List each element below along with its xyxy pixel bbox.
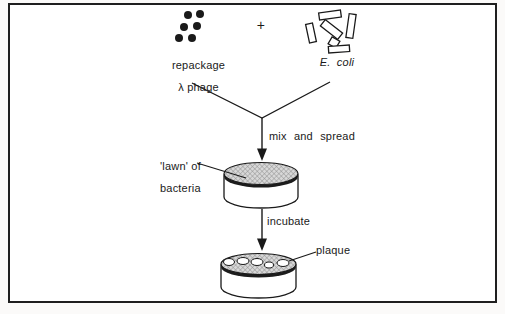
plaque-spot [277, 260, 289, 267]
lawn-label-line2: bacteria [160, 182, 201, 194]
plaque-dish [221, 254, 296, 299]
phage-particle-dot [196, 10, 204, 18]
plaque-spot [224, 259, 235, 266]
ecoli-cell-shape [320, 20, 342, 40]
ecoli-cells-group [306, 10, 357, 53]
phage-particle-dot [180, 23, 188, 31]
phage-dots-group [175, 10, 204, 42]
lawn-dish-surface [224, 163, 298, 185]
phage-particle-dot [175, 34, 183, 42]
plaque-spot [265, 262, 274, 268]
phage-particle-dot [188, 34, 196, 42]
phage-label-line2: λ phage [178, 81, 219, 93]
phage-particle-dot [184, 11, 192, 19]
ecoli-cell-shape [319, 10, 342, 20]
plaque-spot [251, 259, 263, 266]
lawn-dish [224, 163, 298, 209]
lawn-label-line1: 'lawn' of [160, 160, 201, 172]
phage-label-line1: repackage [172, 59, 225, 71]
incubate-arrowhead [257, 239, 267, 252]
plaque-spot [237, 258, 249, 265]
plus-sign: + [252, 20, 270, 31]
lawn-of-bacteria-label: 'lawn' of bacteria [147, 150, 201, 205]
incubate-label: incubate [267, 216, 310, 227]
ecoli-cell-shape [328, 45, 349, 53]
diagram-graphics [0, 0, 505, 314]
plaque-label: plaque [316, 245, 350, 256]
phage-particle-dot [193, 22, 201, 30]
mix-and-spread-label: mix and spread [269, 131, 355, 142]
ecoli-cell-shape [346, 14, 356, 39]
diagram-canvas: repackage λ phage + E. coli mix and spre… [0, 0, 505, 314]
phage-label: repackage λ phage [149, 49, 235, 104]
ecoli-label: E. coli [294, 57, 380, 68]
plaque-pointer-line [289, 252, 316, 261]
mix-arrowhead [257, 149, 267, 162]
ecoli-cell-shape [306, 23, 317, 43]
